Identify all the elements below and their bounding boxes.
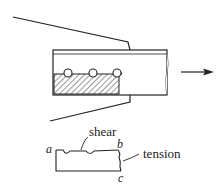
- bolt-2: [89, 69, 97, 77]
- block-shear-diagram: shear tension a b c: [0, 0, 224, 189]
- label-tension: tension: [143, 146, 181, 161]
- label-b: b: [117, 137, 123, 151]
- bolt-3: [113, 69, 121, 77]
- bolt-1: [64, 69, 72, 77]
- label-c: c: [118, 171, 124, 185]
- force-arrow-icon: [181, 69, 214, 76]
- label-a: a: [46, 142, 52, 156]
- failure-block: [56, 137, 139, 171]
- label-shear: shear: [89, 124, 117, 139]
- gusset-plate: [13, 17, 130, 121]
